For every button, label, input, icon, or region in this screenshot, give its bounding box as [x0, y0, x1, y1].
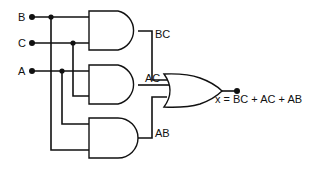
- branch-C: [70, 40, 89, 96]
- gate-label-BC: BC: [155, 28, 170, 40]
- input-C: [29, 40, 89, 46]
- input-label-B: B: [18, 11, 25, 23]
- and-gate-3: [89, 118, 138, 158]
- or-gate: [164, 74, 222, 107]
- input-B: [29, 14, 89, 20]
- input-label-A: A: [18, 65, 26, 77]
- input-A: [29, 68, 89, 74]
- gate-label-AC: AC: [145, 72, 160, 84]
- input-label-C: C: [18, 37, 26, 49]
- gate-label-AB: AB: [155, 127, 170, 139]
- output-expression: x = BC + AC + AB: [215, 93, 302, 105]
- branch-B: [48, 14, 89, 150]
- logic-circuit-diagram: B C A BC AC AB x = BC + AC + AB: [0, 0, 314, 169]
- and-gate-1: [89, 11, 134, 50]
- and-gate-2: [89, 65, 134, 104]
